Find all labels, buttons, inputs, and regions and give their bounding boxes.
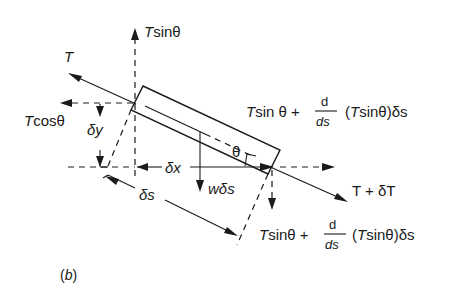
- label-theta: θ: [232, 143, 240, 160]
- svg-text:d: d: [329, 217, 336, 232]
- svg-text:ds: ds: [316, 114, 330, 129]
- svg-text:Tsin θ +: Tsin θ +: [246, 103, 300, 120]
- svg-text:d: d: [321, 94, 328, 109]
- arrowhead-left: [60, 99, 72, 107]
- label-weight: wδs: [208, 180, 235, 197]
- arrowhead-up: [131, 28, 139, 40]
- label-tsin-top: Tsinθ: [144, 23, 181, 40]
- left-end-dashed: [108, 110, 131, 166]
- arrowhead-node-right: [260, 163, 274, 171]
- arrowhead-down: [268, 198, 276, 210]
- vertical-tsin-right: [268, 170, 276, 210]
- upper-right-expression: Tsin θ + d ds (Tsinθ)δs: [246, 94, 408, 129]
- dx-dimension: [137, 163, 162, 171]
- horizontal-baseline: [68, 163, 335, 171]
- lower-right-expression: Tsinθ + d ds (Tsinθ)δs: [259, 217, 415, 252]
- cable-element-block: [131, 86, 280, 174]
- svg-text:Tsinθ +: Tsinθ +: [259, 226, 309, 243]
- cable-element-diagram: T Tsinθ Tcosθ δy δx δs wδs θ T + δT Tsin…: [0, 0, 455, 300]
- label-dx: δx: [165, 159, 181, 176]
- label-t-left: T: [64, 48, 75, 65]
- arrowhead-right-baseline: [322, 163, 335, 171]
- svg-text:ds: ds: [325, 237, 339, 252]
- label-ds: δs: [139, 186, 155, 203]
- arrowhead-t-right: [334, 193, 348, 202]
- panel-label: (b): [60, 267, 77, 283]
- label-t-plus-dt: T + δT: [352, 182, 396, 199]
- svg-text:(Tsinθ)δs: (Tsinθ)δs: [352, 226, 415, 243]
- label-tcos-left: Tcosθ: [24, 112, 65, 129]
- arrowhead-t-left: [68, 73, 82, 82]
- label-dy: δy: [87, 121, 104, 138]
- svg-text:(Tsinθ)δs: (Tsinθ)δs: [345, 103, 408, 120]
- horizontal-tcos-left: [60, 99, 135, 107]
- vertical-tsin-left: [131, 28, 139, 180]
